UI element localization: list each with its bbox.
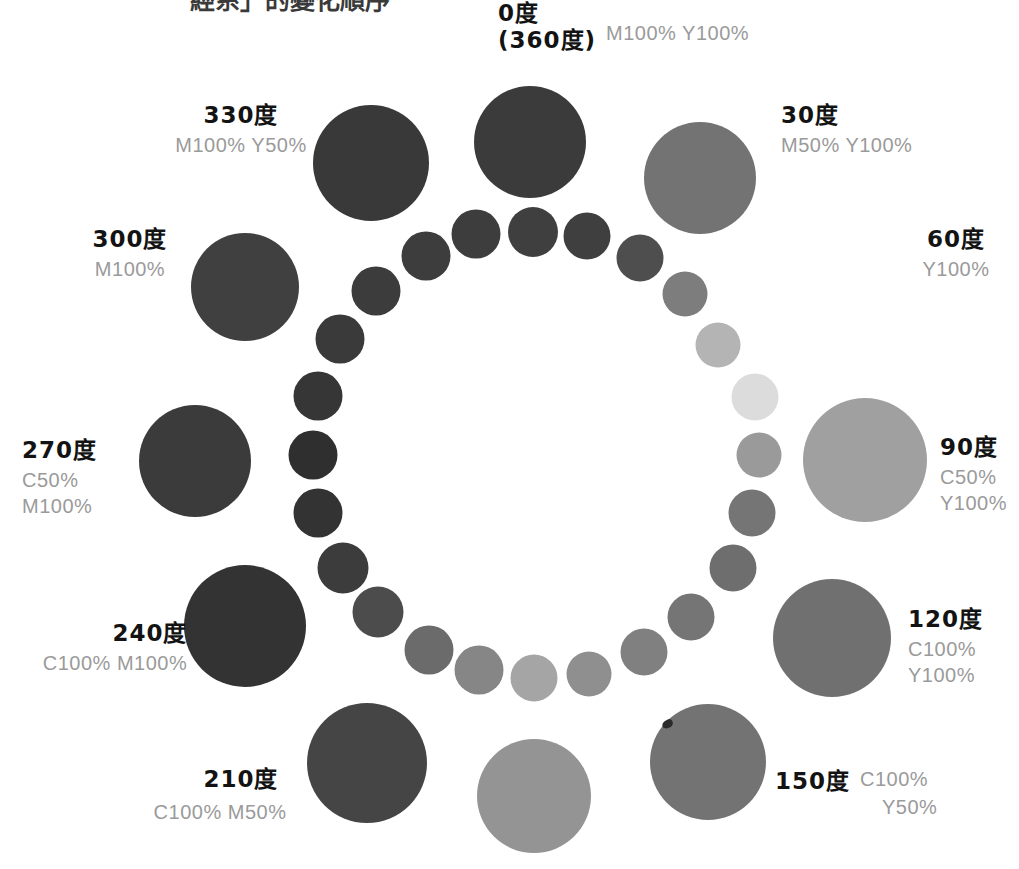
gradation-circle (729, 490, 776, 537)
gradation-circle (289, 431, 338, 480)
hue-circle-120 (773, 579, 891, 697)
hue-circle-90 (803, 398, 927, 522)
colour-wheel-figure: 經系」的變化順序 0度 (360度) M100% (0, 0, 1019, 869)
label-240-degrees-value: 240度 (0, 620, 230, 647)
gradation-circle (668, 594, 715, 641)
gradation-circle (621, 629, 668, 676)
label-120-degrees: 120度 C100% Y100% (908, 606, 983, 687)
gradation-circle (294, 372, 343, 421)
label-330-cmy: M100% Y50% (131, 134, 351, 158)
hue-circle-150 (650, 704, 766, 820)
gradation-circle (710, 545, 757, 592)
label-270-cmy-m: M100% (22, 495, 97, 519)
gradation-circle (352, 267, 401, 316)
gradation-circle (318, 543, 369, 594)
label-60-cmy: Y100% (908, 258, 1004, 282)
gradation-circle (617, 235, 664, 282)
label-30-degrees: 30度 M50% Y100% (781, 102, 912, 158)
gradation-circle (353, 587, 404, 638)
hue-circle-300 (191, 233, 299, 341)
label-60-degrees: 60度 Y100% (908, 226, 1004, 282)
label-240-cmy: C100% M100% (0, 652, 230, 676)
gradation-circle (316, 315, 365, 364)
label-150-degrees-value: 150度 (775, 768, 850, 795)
gradation-circle (567, 652, 612, 697)
label-30-cmy: M50% Y100% (781, 134, 912, 158)
label-120-cmy-y: Y100% (908, 664, 983, 688)
gradation-circle (663, 272, 708, 317)
gradation-circle (294, 489, 343, 538)
label-60-degrees-value: 60度 (908, 226, 1004, 253)
label-120-cmy-c: C100% (908, 638, 983, 662)
label-330-degrees-value: 330度 (131, 102, 351, 129)
gradation-circle (508, 207, 558, 257)
gradation-circle (511, 655, 558, 702)
label-90-degrees: 90度 C50% Y100% (940, 434, 1007, 515)
gradation-circle (405, 626, 454, 675)
label-300-degrees-value: 300度 (60, 226, 200, 253)
label-120-degrees-value: 120度 (908, 606, 983, 633)
label-330-degrees: 330度 M100% Y50% (131, 102, 351, 158)
label-0-cmy: M100% Y100% (606, 0, 749, 46)
gradation-circle (696, 323, 741, 368)
gradation-circle (564, 213, 611, 260)
label-0-degrees-alt: (360度) (498, 27, 596, 54)
label-270-cmy-c: C50% (22, 469, 97, 493)
label-30-degrees-value: 30度 (781, 102, 912, 129)
page-heading-text: 經系」的變化順序 (190, 0, 390, 16)
label-0-degrees: 0度 (360度) M100% Y100% (498, 0, 749, 54)
label-210-degrees: 210度 C100% M50% (100, 766, 340, 825)
gradation-circle (732, 374, 779, 421)
label-300-degrees: 300度 M100% (60, 226, 200, 282)
label-0-degrees-value: 0度 (498, 0, 596, 27)
label-150-cmy-y: Y50% (882, 796, 937, 820)
label-270-degrees-value: 270度 (22, 437, 97, 464)
hue-circle-180 (477, 739, 591, 853)
gradation-circle (737, 433, 782, 478)
label-150-degrees: 150度 C100% Y50% (775, 768, 937, 819)
label-300-cmy: M100% (60, 258, 200, 282)
label-90-cmy-c: C50% (940, 466, 1007, 490)
label-210-cmy: C100% M50% (100, 801, 340, 825)
hue-circle-0 (474, 86, 586, 198)
label-150-cmy-c: C100% (860, 768, 937, 792)
gradation-circle (455, 646, 504, 695)
ink-speck-artifact (661, 718, 674, 730)
label-90-cmy-y: Y100% (940, 492, 1007, 516)
gradation-circle (402, 232, 451, 281)
gradation-circle (452, 210, 501, 259)
label-90-degrees-value: 90度 (940, 434, 1007, 461)
label-210-degrees-value: 210度 (100, 766, 340, 793)
label-240-degrees: 240度 C100% M100% (0, 620, 230, 676)
label-270-degrees: 270度 C50% M100% (22, 437, 97, 518)
hue-circle-270 (139, 405, 251, 517)
hue-circle-30 (644, 122, 756, 234)
